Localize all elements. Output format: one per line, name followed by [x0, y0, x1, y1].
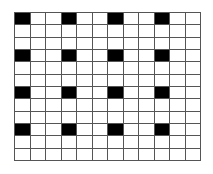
- filled-cell: [108, 13, 124, 25]
- filled-cell: [155, 87, 171, 99]
- empty-cell: [124, 13, 140, 25]
- empty-cell: [46, 112, 62, 124]
- empty-cell: [186, 136, 202, 148]
- empty-cell: [93, 50, 109, 62]
- empty-cell: [108, 75, 124, 87]
- empty-cell: [31, 25, 47, 37]
- filled-cell: [15, 50, 31, 62]
- empty-cell: [93, 124, 109, 136]
- empty-cell: [170, 99, 186, 111]
- empty-cell: [186, 13, 202, 25]
- empty-cell: [124, 62, 140, 74]
- empty-cell: [139, 50, 155, 62]
- empty-cell: [186, 75, 202, 87]
- empty-cell: [124, 75, 140, 87]
- empty-cell: [108, 136, 124, 148]
- filled-cell: [62, 124, 78, 136]
- empty-cell: [170, 87, 186, 99]
- empty-cell: [31, 62, 47, 74]
- empty-cell: [93, 25, 109, 37]
- empty-cell: [170, 25, 186, 37]
- empty-cell: [31, 149, 47, 161]
- empty-cell: [77, 124, 93, 136]
- empty-cell: [46, 87, 62, 99]
- empty-cell: [15, 99, 31, 111]
- empty-cell: [170, 62, 186, 74]
- empty-cell: [46, 124, 62, 136]
- empty-cell: [155, 99, 171, 111]
- empty-cell: [186, 112, 202, 124]
- empty-cell: [31, 87, 47, 99]
- empty-cell: [77, 62, 93, 74]
- empty-cell: [31, 124, 47, 136]
- empty-cell: [139, 87, 155, 99]
- empty-cell: [15, 112, 31, 124]
- empty-cell: [170, 149, 186, 161]
- empty-cell: [124, 87, 140, 99]
- empty-cell: [31, 13, 47, 25]
- empty-cell: [108, 62, 124, 74]
- empty-cell: [93, 62, 109, 74]
- empty-cell: [77, 99, 93, 111]
- empty-cell: [77, 38, 93, 50]
- empty-cell: [15, 75, 31, 87]
- empty-cell: [46, 25, 62, 37]
- empty-cell: [46, 99, 62, 111]
- empty-cell: [124, 124, 140, 136]
- empty-cell: [15, 136, 31, 148]
- empty-cell: [170, 136, 186, 148]
- filled-cell: [15, 87, 31, 99]
- empty-cell: [62, 99, 78, 111]
- empty-cell: [46, 62, 62, 74]
- empty-cell: [124, 38, 140, 50]
- empty-cell: [15, 25, 31, 37]
- empty-cell: [139, 25, 155, 37]
- empty-cell: [186, 62, 202, 74]
- filled-cell: [62, 50, 78, 62]
- empty-cell: [124, 149, 140, 161]
- empty-cell: [186, 149, 202, 161]
- empty-cell: [93, 136, 109, 148]
- filled-cell: [155, 50, 171, 62]
- empty-cell: [46, 50, 62, 62]
- empty-cell: [77, 87, 93, 99]
- empty-cell: [108, 99, 124, 111]
- empty-cell: [139, 112, 155, 124]
- empty-cell: [62, 25, 78, 37]
- empty-cell: [31, 75, 47, 87]
- empty-cell: [139, 38, 155, 50]
- filled-cell: [155, 124, 171, 136]
- empty-cell: [62, 112, 78, 124]
- empty-cell: [77, 75, 93, 87]
- empty-cell: [62, 149, 78, 161]
- empty-cell: [31, 99, 47, 111]
- empty-cell: [186, 124, 202, 136]
- empty-cell: [31, 112, 47, 124]
- empty-cell: [77, 112, 93, 124]
- empty-cell: [155, 75, 171, 87]
- empty-cell: [77, 25, 93, 37]
- empty-cell: [124, 99, 140, 111]
- empty-cell: [170, 75, 186, 87]
- empty-cell: [108, 25, 124, 37]
- pattern-grid: [14, 12, 201, 161]
- empty-cell: [15, 62, 31, 74]
- empty-cell: [124, 136, 140, 148]
- empty-cell: [124, 25, 140, 37]
- empty-cell: [139, 124, 155, 136]
- empty-cell: [186, 87, 202, 99]
- empty-cell: [93, 75, 109, 87]
- empty-cell: [186, 99, 202, 111]
- empty-cell: [108, 149, 124, 161]
- filled-cell: [108, 124, 124, 136]
- empty-cell: [170, 50, 186, 62]
- empty-cell: [77, 50, 93, 62]
- empty-cell: [93, 38, 109, 50]
- empty-cell: [170, 112, 186, 124]
- empty-cell: [93, 112, 109, 124]
- empty-cell: [186, 50, 202, 62]
- filled-cell: [108, 87, 124, 99]
- empty-cell: [93, 87, 109, 99]
- empty-cell: [155, 112, 171, 124]
- empty-cell: [62, 62, 78, 74]
